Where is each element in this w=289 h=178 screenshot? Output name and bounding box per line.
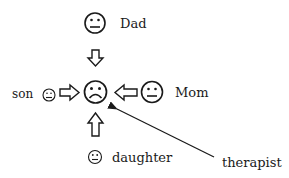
center-sad-face-icon xyxy=(85,81,107,103)
left-arrow-icon xyxy=(115,85,137,100)
daughter-neutral-face-icon xyxy=(89,151,102,164)
son-neutral-face-icon xyxy=(43,89,55,101)
dad-label: Dad xyxy=(120,16,147,31)
mom-label: Mom xyxy=(175,85,208,100)
daughter-label: daughter xyxy=(112,150,173,165)
down-arrow-icon xyxy=(88,50,103,66)
mom-neutral-face-icon xyxy=(142,82,163,103)
son-label: son xyxy=(12,87,33,101)
up-arrow-icon xyxy=(88,113,103,136)
right-arrow-icon xyxy=(60,85,79,100)
dad-neutral-face-icon xyxy=(85,13,105,33)
family-diagram: Dad son Mom daughter therapist xyxy=(0,0,289,178)
therapist-label: therapist xyxy=(222,155,282,170)
